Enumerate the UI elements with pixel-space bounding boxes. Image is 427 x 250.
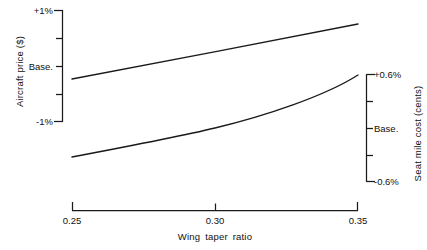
x-tick-label-030: 0.30 — [192, 215, 238, 226]
x-tick-label-035: 0.35 — [335, 215, 381, 226]
chart-figure: Aircraft price ($) Seat mile cost (cents… — [0, 0, 427, 250]
x-tick-label-025: 0.25 — [49, 215, 95, 226]
x-axis-title: Wing taper ratio — [145, 231, 285, 242]
left-tick-label-base: Base. — [11, 61, 53, 72]
left-tick-label-minus1: -1% — [11, 116, 53, 127]
left-axis — [54, 10, 63, 122]
chart-plot-area — [0, 0, 427, 250]
left-tick-label-plus1: +1% — [11, 5, 53, 16]
right-tick-label-base: Base. — [374, 123, 398, 134]
series-line-aircraft-price — [72, 24, 358, 79]
series-line-seat-mile-cost — [72, 75, 358, 157]
right-axis-title: Seat mile cost (cents) — [412, 64, 423, 204]
right-tick-label-minus06: -0.6% — [374, 176, 399, 187]
right-tick-label-plus06: +0.6% — [374, 69, 401, 80]
x-axis — [72, 202, 358, 211]
